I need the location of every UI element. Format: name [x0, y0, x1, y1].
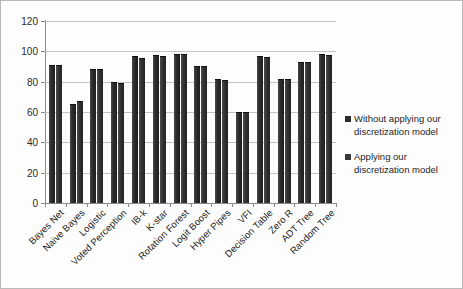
bar-group [128, 21, 149, 203]
bar [111, 82, 117, 203]
legend-label-series2: Applying our discretization model [354, 151, 438, 176]
bar-group [294, 21, 315, 203]
bar [181, 54, 187, 203]
bar [97, 69, 103, 203]
bars-layer [45, 21, 336, 203]
bar-group [315, 21, 336, 203]
bar [174, 54, 180, 203]
y-tick-label: 100 [21, 46, 38, 57]
bar [319, 54, 325, 203]
bar [257, 56, 263, 203]
bar [298, 62, 304, 203]
bar-group [107, 21, 128, 203]
bar [278, 79, 284, 203]
y-tick-label: 120 [21, 16, 38, 27]
bar [215, 79, 221, 203]
bar [285, 79, 291, 203]
bar [90, 69, 96, 203]
bar-group [232, 21, 253, 203]
bar-group [149, 21, 170, 203]
x-axis-labels: Bayes NetNaive BayesLogisticVoted Percep… [45, 207, 337, 287]
y-tick-label: 60 [27, 107, 38, 118]
bar-group [191, 21, 212, 203]
bar [243, 112, 249, 203]
legend-label-series1: Without applying our discretization mode… [354, 113, 441, 138]
bar-group [170, 21, 191, 203]
bar-group [45, 21, 66, 203]
bar-group [211, 21, 232, 203]
bar-group [66, 21, 87, 203]
bar [139, 58, 145, 203]
legend-item: Applying our discretization model [345, 151, 457, 176]
legend-item: Without applying our discretization mode… [345, 113, 457, 138]
bar [153, 55, 159, 203]
bar [305, 62, 311, 203]
bar-chart: 020406080100120 Bayes NetNaive BayesLogi… [0, 0, 463, 289]
bar-group [253, 21, 274, 203]
y-tick-label: 40 [27, 137, 38, 148]
y-tick-label: 0 [32, 198, 38, 209]
chart-legend: Without applying our discretization mode… [345, 113, 457, 189]
bar [118, 83, 124, 203]
bar [222, 80, 228, 203]
bar [70, 104, 76, 203]
bar [56, 65, 62, 203]
bar [236, 112, 242, 203]
bar [264, 57, 270, 203]
bar [77, 101, 83, 203]
y-tick-label: 80 [27, 76, 38, 87]
bar [160, 56, 166, 203]
legend-swatch-series1 [345, 116, 351, 122]
bar [194, 66, 200, 203]
bar [326, 55, 332, 203]
y-tick-label: 20 [27, 167, 38, 178]
bar [132, 56, 138, 203]
bar-group [274, 21, 295, 203]
plot-area: 020406080100120 [45, 21, 336, 203]
legend-swatch-series2 [345, 154, 351, 160]
bar [49, 65, 55, 203]
bar [201, 66, 207, 203]
bar-group [87, 21, 108, 203]
